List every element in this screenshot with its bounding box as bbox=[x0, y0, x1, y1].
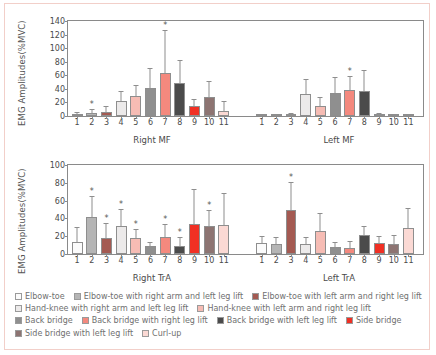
bar[interactable] bbox=[130, 96, 141, 116]
error-bar-cap bbox=[391, 235, 396, 236]
bar-item[interactable]: 8 bbox=[357, 165, 372, 254]
bar-item[interactable]: 5 bbox=[128, 21, 143, 116]
legend-item[interactable]: Back bridge bbox=[15, 316, 73, 325]
bar[interactable] bbox=[116, 226, 127, 254]
bar-item[interactable]: 1 bbox=[70, 165, 85, 254]
bar[interactable] bbox=[116, 101, 127, 116]
legend-row: Back bridgeBack bridge with right leg li… bbox=[15, 316, 427, 325]
bar-item[interactable]: 2 bbox=[269, 21, 284, 116]
bar-item[interactable]: 6 bbox=[143, 165, 158, 254]
legend-item[interactable]: Elbow-toe with right arm and left leg li… bbox=[74, 292, 244, 301]
error-bar bbox=[194, 100, 195, 106]
legend-item[interactable]: Hand-knee with right arm and left leg li… bbox=[15, 304, 188, 313]
bar-item[interactable]: *7 bbox=[158, 21, 173, 116]
bar[interactable] bbox=[374, 243, 385, 254]
bar-item[interactable]: *3 bbox=[284, 165, 299, 254]
x-tick-label: 9 bbox=[374, 118, 385, 127]
bar-group-right-mf: 1*23456*7891011 bbox=[70, 21, 232, 116]
bar-item[interactable]: 9 bbox=[372, 165, 387, 254]
bar-item[interactable]: 5 bbox=[313, 165, 328, 254]
legend-item[interactable]: Elbow-toe bbox=[15, 292, 65, 301]
bar[interactable] bbox=[86, 217, 97, 254]
bar-item[interactable]: 11 bbox=[401, 165, 416, 254]
bar-item[interactable]: 8 bbox=[357, 21, 372, 116]
bar[interactable] bbox=[359, 91, 370, 116]
bar-item[interactable]: 10 bbox=[386, 21, 401, 116]
bar-item[interactable]: 8 bbox=[172, 21, 187, 116]
bar-item[interactable]: *10 bbox=[202, 165, 217, 254]
bar-item[interactable]: 4 bbox=[298, 21, 313, 116]
bar[interactable] bbox=[388, 244, 399, 254]
bar-item[interactable]: 6 bbox=[328, 21, 343, 116]
bar-item[interactable]: *2 bbox=[84, 21, 99, 116]
bar-item[interactable]: 9 bbox=[187, 21, 202, 116]
significance-marker: * bbox=[178, 230, 182, 236]
bar-item[interactable]: 11 bbox=[216, 165, 231, 254]
bar-item[interactable]: 10 bbox=[386, 165, 401, 254]
legend-item[interactable]: Side bridge bbox=[346, 316, 402, 325]
bar-item[interactable]: 9 bbox=[187, 165, 202, 254]
legend-item[interactable]: Back bridge with left leg lift bbox=[217, 316, 337, 325]
bar[interactable] bbox=[330, 93, 341, 116]
bar[interactable] bbox=[256, 243, 267, 254]
bar[interactable] bbox=[359, 235, 370, 254]
bar[interactable] bbox=[145, 88, 156, 117]
bar-item[interactable]: 7 bbox=[342, 165, 357, 254]
bar[interactable] bbox=[330, 247, 341, 254]
bar[interactable] bbox=[174, 83, 185, 116]
bar[interactable] bbox=[145, 246, 156, 254]
y-tick-label: 40 bbox=[55, 84, 65, 93]
bar-item[interactable]: 3 bbox=[284, 21, 299, 116]
bar-item[interactable]: *7 bbox=[342, 21, 357, 116]
bar-item[interactable]: 3 bbox=[99, 21, 114, 116]
bar-item[interactable]: 5 bbox=[313, 21, 328, 116]
bar[interactable] bbox=[189, 106, 200, 116]
legend-item[interactable]: Side bridge with left leg lift bbox=[15, 329, 133, 338]
bar[interactable] bbox=[204, 226, 215, 254]
bar-item[interactable]: 1 bbox=[254, 165, 269, 254]
bar-item[interactable]: 1 bbox=[70, 21, 85, 116]
error-bar-cap bbox=[89, 196, 94, 197]
bar[interactable] bbox=[344, 90, 355, 116]
bar[interactable] bbox=[300, 244, 311, 254]
bar-item[interactable]: *5 bbox=[128, 165, 143, 254]
y-tick-mark bbox=[65, 48, 68, 49]
bar-item[interactable]: 9 bbox=[372, 21, 387, 116]
bar-item[interactable]: 10 bbox=[202, 21, 217, 116]
bar[interactable] bbox=[218, 225, 229, 254]
bar-item[interactable]: 6 bbox=[143, 21, 158, 116]
bar[interactable] bbox=[315, 231, 326, 254]
legend-item[interactable]: Hand-knee with left arm and right leg li… bbox=[197, 304, 370, 313]
bar-item[interactable]: *4 bbox=[114, 165, 129, 254]
bar[interactable] bbox=[189, 224, 200, 254]
legend-item[interactable]: Elbow-toe with left arm and right leg li… bbox=[252, 292, 422, 301]
bar-item[interactable]: *3 bbox=[99, 165, 114, 254]
bar-item[interactable]: *2 bbox=[84, 165, 99, 254]
bar[interactable] bbox=[160, 237, 171, 254]
bar[interactable] bbox=[72, 242, 83, 254]
bar-item[interactable]: 4 bbox=[298, 165, 313, 254]
bar[interactable] bbox=[271, 244, 282, 254]
legend-item[interactable]: Back bridge with right leg lift bbox=[82, 316, 208, 325]
bar[interactable] bbox=[315, 106, 326, 116]
bar-item[interactable]: 11 bbox=[401, 21, 416, 116]
bar-item[interactable]: 2 bbox=[269, 165, 284, 254]
x-tick-mark bbox=[350, 116, 351, 119]
bar[interactable] bbox=[204, 97, 215, 116]
bar-item[interactable]: *8 bbox=[172, 165, 187, 254]
significance-marker: * bbox=[134, 222, 138, 228]
x-tick-mark bbox=[276, 116, 277, 119]
bar-item[interactable]: 1 bbox=[254, 21, 269, 116]
bar[interactable] bbox=[101, 238, 112, 254]
bar[interactable] bbox=[403, 228, 414, 254]
bar-item[interactable]: *7 bbox=[158, 165, 173, 254]
legend-item[interactable]: Curl-up bbox=[142, 329, 181, 338]
bar[interactable] bbox=[300, 94, 311, 116]
bar[interactable] bbox=[286, 210, 297, 255]
bar[interactable] bbox=[130, 238, 141, 254]
bar[interactable] bbox=[174, 246, 185, 254]
bar[interactable] bbox=[160, 73, 171, 116]
bar-item[interactable]: 4 bbox=[114, 21, 129, 116]
bar-item[interactable]: 6 bbox=[328, 165, 343, 254]
bar-item[interactable]: 11 bbox=[216, 21, 231, 116]
